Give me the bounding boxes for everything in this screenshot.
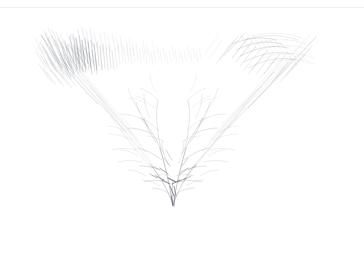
pencil-sketch-drawing: Bird with outstretched wings <box>0 0 364 278</box>
stroke-group-apex-accents <box>150 150 196 206</box>
stroke-group-right-wing-contour <box>180 35 316 186</box>
stroke-group-right-wing-feathers <box>206 32 314 82</box>
sketch-canvas: Bird with outstretched wings <box>0 0 364 278</box>
stroke-group-upper-crest-hatching <box>62 28 201 74</box>
